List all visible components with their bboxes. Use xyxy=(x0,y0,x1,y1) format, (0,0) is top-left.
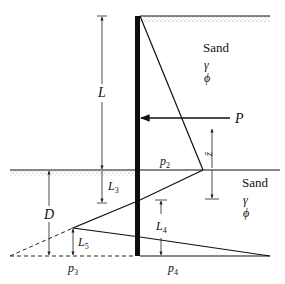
svg-text:z̄: z̄ xyxy=(202,151,214,157)
dimension-L4: L4 xyxy=(155,200,167,255)
upper-soil-label: Sand γ ϕ xyxy=(203,40,230,85)
svg-text:Sand: Sand xyxy=(203,40,230,55)
dimension-D: D xyxy=(43,171,54,255)
dimension-L: L xyxy=(97,16,107,169)
sheet-pile-diagram: L L3 D L5 L4 xyxy=(0,0,285,284)
svg-text:Sand: Sand xyxy=(242,175,269,190)
lower-soil-label: Sand γ ϕ xyxy=(242,175,269,220)
dimension-L5: L5 xyxy=(73,229,89,255)
dimension-zbar: z̄ xyxy=(202,129,219,199)
label-p2: p2 xyxy=(159,154,170,170)
net-pressure-diagram xyxy=(73,170,270,256)
svg-text:D: D xyxy=(43,207,54,222)
active-pressure-line xyxy=(140,16,203,170)
diagram-canvas: L L3 D L5 L4 xyxy=(0,0,285,284)
sheet-pile-wall xyxy=(135,16,140,256)
svg-text:L: L xyxy=(97,85,106,100)
svg-text:L5: L5 xyxy=(77,235,89,251)
svg-text:ϕ: ϕ xyxy=(204,71,210,85)
svg-text:P: P xyxy=(234,111,244,126)
svg-text:L4: L4 xyxy=(155,219,167,235)
svg-text:γ: γ xyxy=(243,193,248,207)
label-p4: p4 xyxy=(167,261,178,277)
dashed-slope-line xyxy=(10,228,73,256)
svg-text:ϕ: ϕ xyxy=(243,206,249,220)
ground-surface-top xyxy=(140,16,270,22)
label-p3: p3 xyxy=(67,261,78,277)
svg-text:γ: γ xyxy=(204,58,209,72)
dredge-line-left xyxy=(10,170,135,176)
force-P-arrow: P xyxy=(141,111,244,126)
svg-text:L3: L3 xyxy=(107,179,119,195)
